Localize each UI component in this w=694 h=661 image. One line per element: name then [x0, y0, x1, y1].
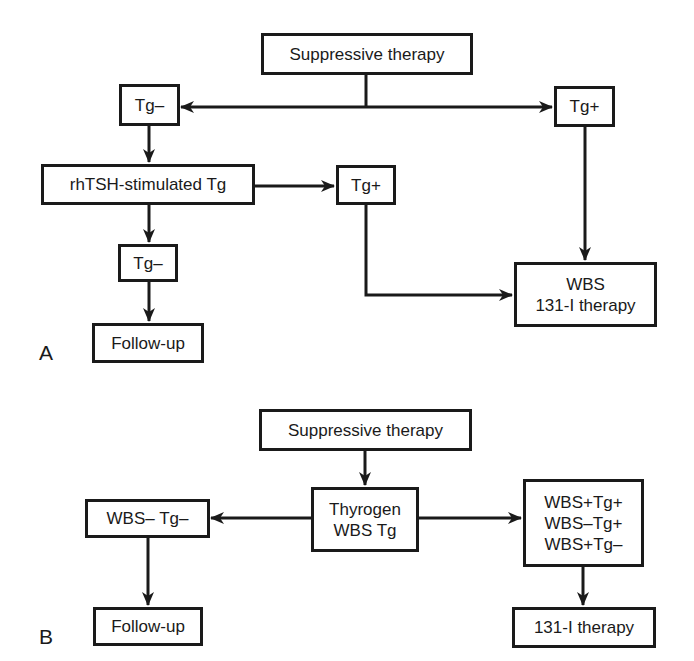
node-b-thyrogen-wbs-tg: Thyrogen WBS Tg — [311, 487, 419, 552]
node-label-line-2: 131-I therapy — [535, 295, 635, 316]
node-b-wbs-negative-tg-negative: WBS– Tg– — [85, 499, 210, 538]
node-label-line-3: WBS+Tg– — [545, 534, 623, 555]
node-label: Follow-up — [111, 616, 185, 637]
node-a-tg-positive-mid: Tg+ — [336, 165, 396, 205]
node-b-positive-results: WBS+Tg+ WBS–Tg+ WBS+Tg– — [523, 479, 644, 567]
panel-label-a: A — [39, 342, 53, 363]
node-label: Follow-up — [111, 333, 185, 354]
node-label: WBS– Tg– — [107, 508, 189, 529]
node-label-line-1: WBS — [566, 274, 605, 295]
node-label: 131-I therapy — [534, 617, 634, 638]
node-a-tg-negative-top: Tg– — [119, 84, 180, 126]
node-a-rhtsh-stimulated-tg: rhTSH-stimulated Tg — [41, 164, 255, 205]
node-a-tg-negative-lower: Tg– — [118, 244, 178, 282]
node-label: Suppressive therapy — [288, 420, 443, 441]
edge-a-tg-pos-mid-to-wbs — [366, 205, 512, 295]
node-b-131i-therapy: 131-I therapy — [512, 607, 656, 648]
node-a-wbs-131i-therapy: WBS 131-I therapy — [514, 262, 657, 327]
node-a-suppressive-therapy: Suppressive therapy — [261, 33, 473, 75]
node-label: Tg+ — [351, 175, 381, 196]
panel-label-b: B — [39, 626, 53, 647]
node-label-line-1: Thyrogen — [329, 499, 401, 520]
node-label-line-1: WBS+Tg+ — [544, 492, 622, 513]
node-label: Tg– — [135, 95, 164, 116]
node-label: Tg– — [133, 253, 162, 274]
node-b-follow-up: Follow-up — [93, 607, 203, 646]
flowchart-canvas: Suppressive therapy Tg– Tg+ rhTSH-stimul… — [0, 0, 694, 661]
node-a-tg-positive-right: Tg+ — [554, 86, 615, 127]
node-label: Suppressive therapy — [290, 44, 445, 65]
node-label: Tg+ — [570, 96, 600, 117]
node-label-line-2: WBS Tg — [334, 520, 397, 541]
node-label-line-2: WBS–Tg+ — [545, 513, 623, 534]
node-b-suppressive-therapy: Suppressive therapy — [259, 409, 472, 451]
node-label: rhTSH-stimulated Tg — [70, 174, 227, 195]
node-a-follow-up: Follow-up — [92, 323, 204, 363]
